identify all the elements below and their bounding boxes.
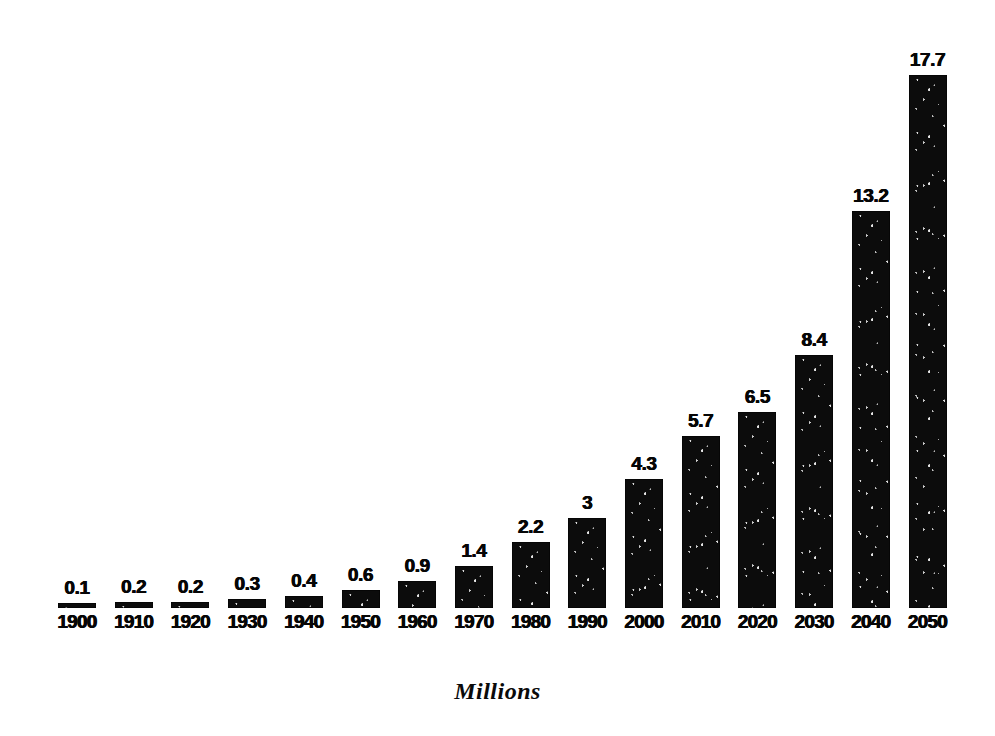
bar-rect bbox=[115, 602, 153, 608]
x-axis-label-1920: 1920 bbox=[160, 612, 220, 631]
bar-rect bbox=[285, 596, 323, 608]
bar-rect bbox=[682, 436, 720, 608]
bar-rect bbox=[568, 518, 606, 608]
x-axis-label-2050: 2050 bbox=[898, 612, 958, 631]
bar-value-label: 0.4 bbox=[291, 571, 316, 590]
bar-rect bbox=[909, 75, 947, 608]
bar-group-2050: 17.7 bbox=[909, 50, 947, 608]
x-axis-label-1910: 1910 bbox=[104, 612, 164, 631]
bar-value-label: 0.2 bbox=[178, 577, 203, 596]
bar-rect bbox=[58, 603, 96, 608]
bar-rect bbox=[738, 412, 776, 608]
x-axis-label-1950: 1950 bbox=[331, 612, 391, 631]
bar-value-label: 1.4 bbox=[461, 541, 486, 560]
x-axis-label-1970: 1970 bbox=[444, 612, 504, 631]
bar-rect bbox=[228, 599, 266, 608]
bar-value-label: 0.2 bbox=[121, 577, 146, 596]
bar-value-label: 13.2 bbox=[853, 186, 888, 205]
bar-rect bbox=[625, 479, 663, 608]
x-axis-label-1900: 1900 bbox=[47, 612, 107, 631]
bar-group-1970: 1.4 bbox=[455, 541, 493, 608]
bar-value-label: 3 bbox=[582, 493, 592, 512]
bar-group-1920: 0.2 bbox=[171, 577, 209, 608]
bar-value-label: 8.4 bbox=[801, 330, 826, 349]
bar-rect bbox=[455, 566, 493, 608]
bar-group-2020: 6.5 bbox=[738, 387, 776, 608]
x-axis-labels: 1900191019201930194019501960197019801990… bbox=[0, 612, 995, 642]
bar-rect bbox=[171, 602, 209, 608]
bar-group-1940: 0.4 bbox=[285, 571, 323, 608]
bar-value-label: 0.1 bbox=[64, 578, 89, 597]
bar-value-label: 0.6 bbox=[348, 565, 373, 584]
x-axis-label-1940: 1940 bbox=[274, 612, 334, 631]
chart-page: 0.10.20.20.30.40.60.91.42.234.35.76.58.4… bbox=[0, 0, 995, 736]
x-axis-label-2040: 2040 bbox=[841, 612, 901, 631]
x-axis-label-1990: 1990 bbox=[557, 612, 617, 631]
x-axis-label-1930: 1930 bbox=[217, 612, 277, 631]
bar-rect bbox=[795, 355, 833, 608]
x-axis-label-2000: 2000 bbox=[614, 612, 674, 631]
bar-group-1900: 0.1 bbox=[58, 578, 96, 608]
bar-group-1910: 0.2 bbox=[115, 577, 153, 608]
bar-rect bbox=[852, 211, 890, 608]
x-axis-label-2020: 2020 bbox=[727, 612, 787, 631]
bar-rect bbox=[512, 542, 550, 608]
x-axis-label-2010: 2010 bbox=[671, 612, 731, 631]
chart-caption: Millions bbox=[0, 678, 995, 705]
bar-value-label: 5.7 bbox=[688, 411, 713, 430]
bar-group-2010: 5.7 bbox=[682, 411, 720, 608]
bar-value-label: 0.9 bbox=[405, 556, 430, 575]
bar-group-2000: 4.3 bbox=[625, 454, 663, 608]
bar-rect bbox=[398, 581, 436, 608]
bar-group-1930: 0.3 bbox=[228, 574, 266, 608]
bar-chart-plot-area: 0.10.20.20.30.40.60.91.42.234.35.76.58.4… bbox=[0, 0, 995, 608]
bar-group-1990: 3 bbox=[568, 493, 606, 608]
bar-value-label: 4.3 bbox=[631, 454, 656, 473]
x-axis-label-2030: 2030 bbox=[784, 612, 844, 631]
bar-group-2040: 13.2 bbox=[852, 186, 890, 608]
x-axis-label-1960: 1960 bbox=[387, 612, 447, 631]
x-axis-label-1980: 1980 bbox=[501, 612, 561, 631]
bar-value-label: 0.3 bbox=[234, 574, 259, 593]
bar-value-label: 6.5 bbox=[745, 387, 770, 406]
bar-value-label: 2.2 bbox=[518, 517, 543, 536]
bar-group-1950: 0.6 bbox=[342, 565, 380, 608]
bar-group-2030: 8.4 bbox=[795, 330, 833, 608]
bar-group-1980: 2.2 bbox=[512, 517, 550, 608]
bar-rect bbox=[342, 590, 380, 608]
bar-group-1960: 0.9 bbox=[398, 556, 436, 608]
bar-value-label: 17.7 bbox=[910, 50, 945, 69]
